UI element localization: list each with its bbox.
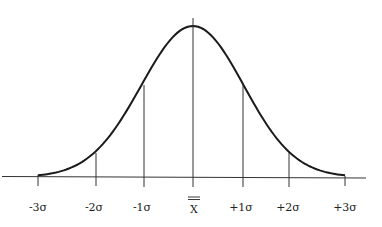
label-minus-1-sigma: -1σ <box>133 201 152 214</box>
label-minus-2-sigma: -2σ <box>85 201 104 214</box>
tick-labels: -3σ -2σ -1σ X +1σ +2σ +3σ <box>29 201 357 216</box>
label-minus-3-sigma: -3σ <box>29 201 48 214</box>
normal-distribution-diagram: -3σ -2σ -1σ X +1σ +2σ +3σ <box>0 0 382 227</box>
x-axis-line <box>2 177 366 179</box>
label-mean: X <box>190 203 198 216</box>
label-plus-2-sigma: +2σ <box>276 201 300 214</box>
label-plus-1-sigma: +1σ <box>229 201 253 214</box>
label-plus-3-sigma: +3σ <box>333 201 357 214</box>
mean-double-bar <box>188 197 200 200</box>
bell-curve <box>38 26 345 175</box>
